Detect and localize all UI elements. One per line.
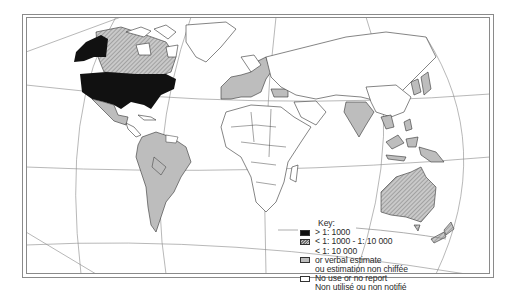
world-map [26, 17, 490, 274]
swatch-black-icon [300, 230, 310, 236]
africa [221, 105, 311, 212]
india [344, 102, 374, 137]
swatch-white-icon [300, 276, 310, 282]
swatch-grey-icon [300, 257, 310, 263]
usa [80, 72, 176, 109]
australia [381, 167, 436, 222]
map-legend: Key: > 1: 1000 < 1: 1000 - 1: 10 000 < 1… [300, 219, 408, 291]
swatch-hatched-icon [300, 239, 310, 245]
asia [266, 32, 436, 102]
legend-item-white-line2: Non utilisé ou non notifié [315, 283, 408, 291]
greenland [186, 22, 236, 62]
south-america [136, 132, 191, 232]
